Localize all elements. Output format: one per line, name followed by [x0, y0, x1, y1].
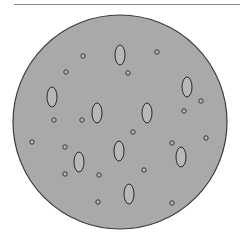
large-oval-particle [176, 147, 186, 167]
small-circle-particle [170, 201, 174, 205]
small-circle-particle [63, 172, 67, 176]
small-circle-particle [126, 71, 130, 75]
small-circle-particle [170, 141, 174, 145]
small-circle-particle [182, 109, 186, 113]
small-circle-particle [64, 70, 68, 74]
large-oval-particle [142, 103, 152, 123]
small-circle-particle [155, 50, 159, 54]
dish-diagram [0, 0, 240, 244]
small-circle-particle [52, 118, 56, 122]
small-circle-particle [97, 173, 101, 177]
small-circle-particle [131, 130, 135, 134]
large-oval-particle [114, 141, 124, 161]
large-oval-particle [115, 45, 125, 65]
small-circle-particle [63, 145, 67, 149]
small-circle-particle [30, 140, 34, 144]
small-circle-particle [96, 200, 100, 204]
large-oval-particle [47, 87, 57, 107]
large-oval-particle [74, 152, 84, 172]
large-oval-particle [92, 103, 102, 123]
small-circle-particle [81, 54, 85, 58]
small-circle-particle [204, 136, 208, 140]
large-oval-particle [182, 77, 192, 97]
small-circle-particle [80, 118, 84, 122]
small-circle-particle [142, 168, 146, 172]
small-circle-particle [199, 99, 203, 103]
large-oval-particle [124, 184, 134, 204]
